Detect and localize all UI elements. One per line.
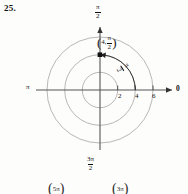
point-label-close-paren: ) xyxy=(112,37,116,48)
plotted-point-marker xyxy=(98,52,103,57)
axis-label-pi: π xyxy=(26,83,30,91)
axis-arrow-pi-over-two-icon xyxy=(97,27,102,33)
three-pi-over-two-denominator: 2 xyxy=(88,164,94,172)
axis-arrow-zero-icon xyxy=(166,87,172,92)
fragment-1-close-paren: ) xyxy=(60,183,65,194)
axis-label-zero: 0 xyxy=(176,84,180,93)
fragment-item-2: ( 3π ) xyxy=(112,183,128,194)
pi-over-two-denominator: 2 xyxy=(95,12,101,20)
plotted-point-label: ( 4, π 2 ) xyxy=(97,35,116,51)
pi-over-two-numerator: π xyxy=(95,4,101,11)
fragment-2-close-paren: ) xyxy=(124,183,129,194)
tick-label-4: 4 xyxy=(135,92,139,100)
three-pi-over-two-numerator: 3π xyxy=(86,156,95,163)
axis-label-three-pi-over-two: 3π 2 xyxy=(86,156,95,172)
axis-label-pi-over-two: π 2 xyxy=(95,4,101,20)
tick-label-6: 6 xyxy=(152,92,156,100)
fragment-item-1: ( 5π ) xyxy=(48,183,64,194)
fragment-1-text: 5π xyxy=(53,185,60,193)
bottom-clipped-fragment: ( 5π ) ( 3π ) xyxy=(0,182,188,194)
tick-label-2: 2 xyxy=(118,92,122,100)
fragment-2-text: 3π xyxy=(117,185,124,193)
